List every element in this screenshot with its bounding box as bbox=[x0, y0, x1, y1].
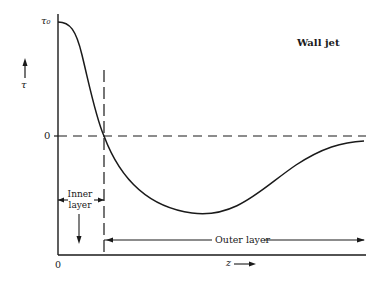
inner-layer-label-line1: Inner bbox=[66, 189, 94, 200]
inner-right-arrowhead-icon bbox=[98, 198, 104, 203]
zero-label: 0 bbox=[44, 131, 50, 141]
tau-arrow-icon bbox=[23, 58, 28, 66]
tau-zero-label: τ₀ bbox=[41, 16, 51, 26]
outer-layer-label: Outer layer bbox=[215, 235, 270, 245]
z-arrow-icon bbox=[249, 262, 256, 267]
inner-layer-label-line2: layer bbox=[66, 200, 94, 211]
inner-layer-label: Inner layer bbox=[66, 189, 94, 211]
wall-jet-title: Wall jet bbox=[297, 38, 340, 48]
z-axis-label: z bbox=[226, 258, 231, 268]
inner-down-arrow-icon bbox=[77, 236, 82, 244]
inner-left-arrowhead-icon bbox=[58, 198, 64, 203]
origin-label: 0 bbox=[55, 260, 61, 270]
shear-stress-curve bbox=[58, 22, 364, 214]
outer-right-arrowhead-icon bbox=[357, 238, 365, 243]
tau-axis-label: τ bbox=[21, 80, 27, 90]
outer-left-arrowhead-icon bbox=[106, 238, 113, 243]
